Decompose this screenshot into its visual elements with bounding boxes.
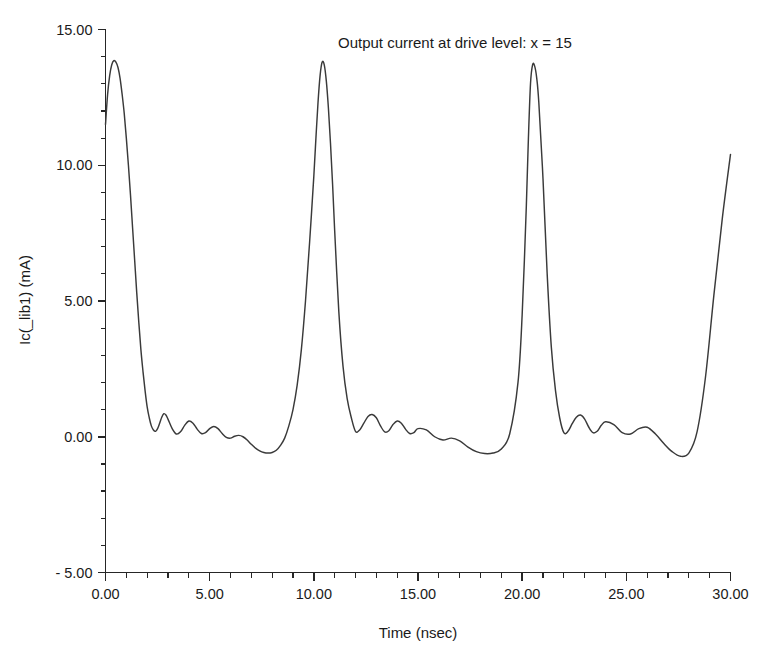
y-axis-title: Ic(_lib1) (mA) <box>16 255 33 345</box>
chart-annotation: Output current at drive level: x = 15 <box>338 34 572 51</box>
y-tick-label: 10.00 <box>56 157 92 173</box>
x-tick-label: 30.00 <box>712 586 748 602</box>
y-axis-tick-labels: - 5.000.005.0010.0015.00 <box>55 22 92 581</box>
y-tick-label: - 5.00 <box>55 565 92 581</box>
x-tick-label: 5.00 <box>196 586 224 602</box>
y-tick-label: 0.00 <box>64 429 92 445</box>
x-axis-major-ticks <box>106 573 731 581</box>
x-tick-label: 10.00 <box>296 586 332 602</box>
y-tick-label: 5.00 <box>64 293 92 309</box>
series-line-ic-lib1 <box>106 61 731 457</box>
x-axis-title: Time (nsec) <box>379 624 458 641</box>
line-chart: - 5.000.005.0010.0015.00 0.005.0010.0015… <box>0 0 770 665</box>
x-tick-label: 15.00 <box>400 586 436 602</box>
x-axis-tick-labels: 0.005.0010.0015.0020.0025.0030.00 <box>91 586 748 602</box>
y-tick-label: 15.00 <box>56 22 92 38</box>
x-tick-label: 25.00 <box>608 586 644 602</box>
x-tick-label: 0.00 <box>91 586 119 602</box>
x-tick-label: 20.00 <box>504 586 540 602</box>
chart-container: - 5.000.005.0010.0015.00 0.005.0010.0015… <box>0 0 770 665</box>
